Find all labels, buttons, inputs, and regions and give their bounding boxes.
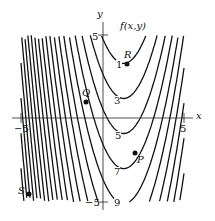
y-tick-label-max: 5 [92,32,98,42]
contour-lines [21,35,184,202]
level-label-5: 5 [115,131,121,141]
contour-line [90,35,157,98]
x-tick-label-max: 5 [180,124,186,134]
point-label-P: P [137,155,144,165]
point-label-R: R [124,50,132,60]
point-S [27,192,32,197]
level-label-9: 9 [114,198,120,208]
level-label-1: 1 [116,60,122,70]
level-label-7: 7 [114,167,120,177]
contour-plot [0,0,215,221]
y-tick-label-min: −5 [85,198,100,208]
x-axis-label: x [196,111,202,121]
chart-title: f(x,y) [120,21,146,31]
contour-line [70,38,178,202]
point-R [125,62,130,67]
point-label-Q: Q [82,88,90,98]
point-Q [84,100,89,105]
point-label-S: S [18,186,25,196]
x-tick-label-min: −5 [14,124,29,134]
level-label-3: 3 [114,96,120,106]
y-axis-label: y [97,9,103,19]
